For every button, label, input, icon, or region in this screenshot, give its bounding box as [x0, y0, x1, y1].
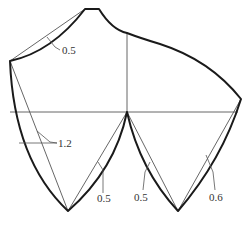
pattern-outline	[10, 9, 241, 211]
left-chord-line	[10, 61, 68, 211]
label-center-left-offset: 0.5	[97, 192, 111, 204]
leader-left-upper	[37, 131, 57, 143]
label-top-left-offset: 0.5	[62, 44, 76, 56]
pattern-diagram: 0.5 1.2 0.5 0.5 0.6	[0, 0, 245, 225]
label-left-offset: 1.2	[58, 137, 72, 149]
label-right-offset: 0.6	[209, 191, 223, 203]
label-center-right-offset: 0.5	[134, 191, 148, 203]
